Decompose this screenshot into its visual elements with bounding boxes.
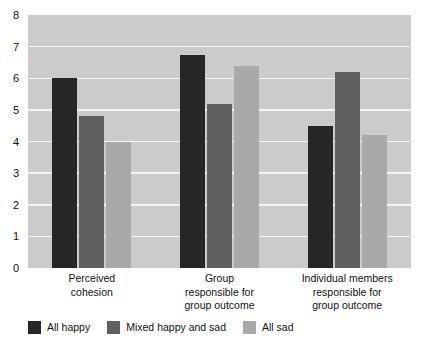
y-axis: 876543210 [0, 15, 24, 268]
y-axis-tick-label: 8 [13, 10, 19, 21]
x-axis-label-line: group outcome [273, 299, 421, 313]
x-axis-label-line: Individual members [273, 272, 421, 286]
bar [308, 126, 333, 268]
legend-item[interactable]: Mixed happy and sad [107, 321, 226, 334]
legend-swatch-all-happy [28, 321, 41, 334]
bar-group [28, 15, 411, 268]
legend-item[interactable]: All sad [243, 321, 294, 334]
y-axis-tick-label: 1 [13, 231, 19, 242]
legend-swatch-all-sad [243, 321, 256, 334]
y-axis-tick-label: 7 [13, 41, 19, 52]
chart-legend: All happyMixed happy and sadAll sad [28, 319, 311, 335]
bar [335, 72, 360, 268]
x-axis-label-line: responsible for [273, 286, 421, 300]
bars-layer [28, 15, 411, 268]
x-axis: PerceivedcohesionGroupresponsible forgro… [28, 272, 411, 312]
bar [362, 135, 387, 268]
y-axis-tick-label: 5 [13, 104, 19, 115]
x-axis-category-label: Groupresponsible forgroup outcome [146, 272, 294, 313]
x-axis-category-label: Perceivedcohesion [18, 272, 166, 299]
x-axis-label-line: group outcome [146, 299, 294, 313]
legend-item-label: All sad [262, 321, 294, 334]
legend-item-label: Mixed happy and sad [126, 321, 226, 334]
legend-item[interactable]: All happy [28, 321, 90, 334]
plot-area [28, 15, 411, 268]
y-axis-tick-label: 4 [13, 136, 19, 147]
y-axis-tick-label: 3 [13, 168, 19, 179]
legend-swatch-mixed-happy-and-sad [107, 321, 120, 334]
x-axis-label-line: Perceived [18, 272, 166, 286]
x-axis-label-line: Group [146, 272, 294, 286]
x-axis-category-label: Individual membersresponsible forgroup o… [273, 272, 421, 313]
bar-chart-figure: 876543210 PerceivedcohesionGroupresponsi… [0, 0, 427, 355]
y-axis-tick-label: 6 [13, 73, 19, 84]
y-axis-tick-label: 2 [13, 199, 19, 210]
x-axis-label-line: responsible for [146, 286, 294, 300]
legend-item-label: All happy [47, 321, 90, 334]
x-axis-label-line: cohesion [18, 286, 166, 300]
